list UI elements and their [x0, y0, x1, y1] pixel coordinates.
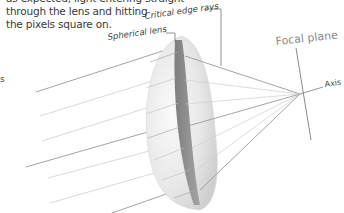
axis-line	[300, 87, 323, 94]
focal-plane-label: Focal plane	[275, 28, 339, 47]
critical-edge-rays-leader	[205, 9, 221, 66]
axis-label: Axis	[324, 78, 342, 89]
spherical-lens-label: Spherical lens	[107, 24, 168, 42]
critical-edge-rays-label: Critical edge rays	[144, 1, 220, 21]
lens-diagram: Spherical lens Critical edge rays Focal …	[0, 0, 344, 213]
